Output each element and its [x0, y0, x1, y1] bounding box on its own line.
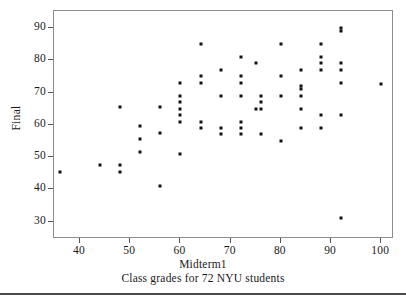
data-point — [299, 107, 302, 110]
data-point — [340, 68, 343, 71]
data-point — [179, 94, 182, 97]
data-point — [254, 107, 257, 110]
x-tick-mark — [129, 238, 130, 243]
data-point — [279, 43, 282, 46]
data-point — [380, 83, 383, 86]
data-point — [199, 126, 202, 129]
x-tick-label: 80 — [260, 244, 300, 256]
data-point — [320, 43, 323, 46]
x-axis-label: Midterm1 — [0, 258, 406, 270]
data-point — [239, 75, 242, 78]
data-point — [119, 164, 122, 167]
y-tick-mark — [48, 27, 53, 28]
data-point — [239, 56, 242, 59]
x-tick-mark — [280, 238, 281, 243]
data-points-layer — [54, 11, 392, 237]
data-point — [320, 114, 323, 117]
data-point — [179, 101, 182, 104]
data-point — [179, 114, 182, 117]
data-point — [259, 101, 262, 104]
data-point — [159, 185, 162, 188]
data-point — [179, 81, 182, 84]
data-point — [199, 81, 202, 84]
y-tick-mark — [48, 92, 53, 93]
data-point — [279, 139, 282, 142]
x-tick-label: 90 — [310, 244, 350, 256]
data-point — [219, 133, 222, 136]
data-point — [239, 120, 242, 123]
data-point — [239, 133, 242, 136]
y-tick-label: 80 — [14, 52, 46, 64]
y-tick-mark — [48, 59, 53, 60]
data-point — [299, 68, 302, 71]
x-tick-label: 50 — [109, 244, 149, 256]
data-point — [340, 62, 343, 65]
data-point — [340, 217, 343, 220]
data-point — [199, 43, 202, 46]
x-tick-mark — [179, 238, 180, 243]
x-tick-mark — [230, 238, 231, 243]
data-point — [320, 56, 323, 59]
data-point — [159, 131, 162, 134]
y-tick-mark — [48, 221, 53, 222]
data-point — [279, 94, 282, 97]
data-point — [259, 133, 262, 136]
data-point — [139, 138, 142, 141]
data-point — [119, 106, 122, 109]
data-point — [179, 107, 182, 110]
data-point — [259, 94, 262, 97]
data-point — [299, 126, 302, 129]
plot-area-frame — [53, 10, 393, 238]
scatter-plot-figure: 405060708090100 30405060708090 Final Mid… — [0, 0, 406, 298]
data-point — [219, 94, 222, 97]
x-tick-mark — [380, 238, 381, 243]
data-point — [299, 94, 302, 97]
data-point — [254, 62, 257, 65]
x-tick-mark — [330, 238, 331, 243]
data-point — [320, 68, 323, 71]
y-tick-mark — [48, 124, 53, 125]
data-point — [320, 62, 323, 65]
data-point — [239, 126, 242, 129]
data-point — [159, 106, 162, 109]
data-point — [299, 88, 302, 91]
x-tick-label: 40 — [59, 244, 99, 256]
data-point — [239, 81, 242, 84]
data-point — [219, 126, 222, 129]
data-point — [340, 81, 343, 84]
data-point — [99, 164, 102, 167]
y-tick-mark — [48, 188, 53, 189]
data-point — [179, 152, 182, 155]
data-point — [239, 94, 242, 97]
y-tick-mark — [48, 156, 53, 157]
x-tick-mark — [79, 238, 80, 243]
data-point — [340, 114, 343, 117]
data-point — [139, 125, 142, 128]
data-point — [320, 126, 323, 129]
data-point — [199, 75, 202, 78]
x-tick-label: 100 — [360, 244, 400, 256]
y-tick-label: 90 — [14, 20, 46, 32]
x-tick-label: 60 — [159, 244, 199, 256]
data-point — [139, 151, 142, 154]
data-point — [199, 120, 202, 123]
x-tick-label: 70 — [210, 244, 250, 256]
data-point — [279, 75, 282, 78]
data-point — [179, 120, 182, 123]
y-axis-label: Final — [10, 88, 22, 148]
y-tick-label: 30 — [14, 214, 46, 226]
page-bottom-rule — [0, 293, 406, 295]
figure-caption: Class grades for 72 NYU students — [0, 272, 406, 284]
data-point — [340, 30, 343, 33]
data-point — [219, 68, 222, 71]
data-point — [119, 170, 122, 173]
data-point — [259, 107, 262, 110]
y-tick-label: 40 — [14, 181, 46, 193]
data-point — [58, 170, 61, 173]
y-tick-label: 50 — [14, 149, 46, 161]
